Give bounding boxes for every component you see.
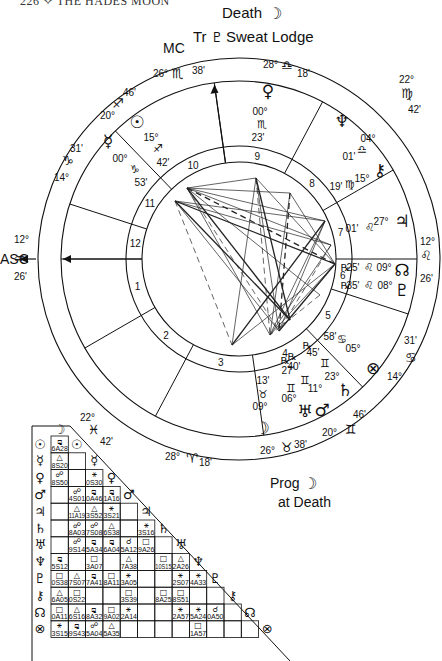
chiron-icon: ⚷ bbox=[374, 160, 386, 180]
moon-icon: ☽ bbox=[303, 474, 317, 493]
zodiac-sign-icon: ♍ bbox=[345, 178, 355, 191]
aspect-orb: 5A35 bbox=[103, 629, 119, 638]
cusp-degree: 28° bbox=[165, 451, 180, 462]
row-planet-icon: ☊ bbox=[34, 605, 46, 620]
aspect-orb: 6S38 bbox=[103, 528, 119, 537]
aspect-orb: 0A11 bbox=[52, 612, 68, 621]
aspect-orb: 8S51 bbox=[173, 595, 189, 604]
planet-neptune: ♆04°♎01' bbox=[334, 111, 375, 162]
aspect-cell bbox=[172, 621, 189, 638]
natal-chart-wheel: 12345678910111212°♒26'22°♓42'28°♈18'26°♉… bbox=[0, 0, 442, 661]
aspect-cell bbox=[51, 486, 68, 503]
aspect-cell bbox=[68, 453, 85, 470]
aspect-orb: 8A03 bbox=[69, 528, 85, 537]
house-cusp-line bbox=[285, 102, 323, 174]
aspect-line bbox=[175, 201, 232, 345]
aspect-orb: 0A46 bbox=[86, 494, 102, 503]
planet-venus: ♀00°♏23' bbox=[251, 81, 274, 143]
planet-minute: 42' bbox=[156, 157, 169, 168]
uranus-icon: ♅ bbox=[297, 401, 312, 421]
diagonal-planet-icon: ♇ bbox=[210, 571, 222, 586]
aspect-cell bbox=[155, 537, 172, 554]
aspect-orb: 2A57 bbox=[173, 612, 189, 621]
moon-icon: ☽ bbox=[54, 422, 66, 437]
house-number: 3 bbox=[218, 357, 224, 368]
retrograde-icon: ℞ bbox=[303, 340, 312, 351]
zodiac-sign-icon: ♉ bbox=[258, 388, 268, 401]
aspect-orb: 11A19 bbox=[69, 511, 85, 520]
diagonal-planet-icon: ⊗ bbox=[262, 621, 273, 636]
planet-minute: 01' bbox=[342, 151, 355, 162]
cusp-label: 12°♌26' bbox=[420, 236, 435, 284]
aspect-cell bbox=[51, 503, 68, 520]
aspect-orb: 5A12 bbox=[121, 545, 137, 554]
caption-prog: Prog bbox=[270, 475, 300, 491]
asc-label: ASC bbox=[0, 251, 29, 267]
aspect-orb: 9A02 bbox=[103, 612, 119, 621]
jupiter-icon: ♃ bbox=[394, 211, 409, 231]
zodiac-sign-icon: ♑ bbox=[62, 153, 74, 168]
aspect-cell bbox=[207, 621, 224, 638]
zodiac-sign-icon: ♑ bbox=[130, 163, 140, 176]
aspect-orb: 5A34 bbox=[86, 545, 102, 554]
house-cusps bbox=[20, 83, 417, 436]
house-number: 8 bbox=[309, 178, 315, 189]
cusp-degree: 20° bbox=[322, 427, 337, 438]
row-planet-icon: ♄ bbox=[34, 521, 46, 536]
house-number: 7 bbox=[338, 227, 344, 238]
diagonal-planet-icon: ♂ bbox=[123, 487, 135, 502]
aspect-cell bbox=[68, 470, 85, 487]
aspect-cell bbox=[241, 621, 258, 638]
north-node-icon: ☊ bbox=[394, 260, 409, 280]
diagonal-planet-icon: ☊ bbox=[244, 605, 256, 620]
aspect-orb: 8S50 bbox=[52, 478, 68, 487]
venus-icon: ♀ bbox=[262, 81, 274, 101]
asc-arrow-head bbox=[63, 255, 71, 263]
house-cusp-line bbox=[70, 204, 147, 229]
aspect-orb: 7A38 bbox=[121, 562, 137, 571]
retrograde-icon: ℞ bbox=[281, 355, 290, 366]
zodiac-sign-icon: ♎ bbox=[281, 58, 293, 73]
aspect-cell bbox=[207, 587, 224, 604]
aspect-line bbox=[270, 295, 320, 335]
caption-death: Death bbox=[222, 4, 262, 21]
planet-degree: 05° bbox=[345, 343, 360, 354]
zodiac-sign-icon: ♐ bbox=[112, 96, 124, 111]
cusp-degree: 28° bbox=[263, 59, 278, 70]
diagonal-planet-icon: ⚷ bbox=[228, 588, 238, 603]
planet-degree: 11° bbox=[308, 383, 322, 394]
aspect-orb: 3S39 bbox=[121, 595, 137, 604]
aspect-cell bbox=[103, 587, 120, 604]
zodiac-sign-icon: ♉ bbox=[281, 440, 293, 455]
house-number: 9 bbox=[254, 151, 260, 162]
planet-minute: 27' bbox=[281, 365, 294, 376]
house-number: 10 bbox=[187, 160, 199, 171]
diagonal-planet-icon: ♅ bbox=[175, 537, 187, 552]
planet-minute: 01' bbox=[345, 223, 358, 234]
cusp-degree: 26° bbox=[260, 445, 275, 456]
aspect-orb: 7S08 bbox=[86, 528, 102, 537]
cusp-minute: 26' bbox=[14, 271, 27, 282]
cusp-label: 14°♑31' bbox=[54, 143, 83, 183]
house-number: 11 bbox=[145, 198, 156, 209]
aspect-orb: 3S21 bbox=[103, 511, 119, 520]
aspect-cell bbox=[68, 554, 85, 571]
cusp-minute: 38' bbox=[192, 65, 205, 76]
zodiac-sign-icon: ♋ bbox=[337, 333, 347, 346]
aspect-line bbox=[232, 178, 256, 345]
mc-arrow-head bbox=[211, 85, 219, 94]
aspect-orb: 0S30 bbox=[86, 478, 102, 487]
zodiac-sign-icon: ♌ bbox=[364, 279, 374, 292]
row-planet-icon: ⚷ bbox=[35, 588, 45, 603]
aspect-lines bbox=[175, 178, 335, 345]
zodiac-sign-icon: ♏ bbox=[172, 66, 184, 81]
zodiac-sign-icon: ♍ bbox=[401, 86, 413, 101]
zodiac-sign-icon: ♋ bbox=[405, 350, 417, 365]
cusp-degree: 26° bbox=[153, 68, 168, 79]
planet-degree: 09° bbox=[252, 401, 267, 412]
aspect-cell bbox=[120, 621, 137, 638]
aspect-line bbox=[290, 193, 335, 264]
aspect-cell bbox=[138, 570, 155, 587]
planet-minute: 53' bbox=[134, 177, 147, 188]
aspect-orb: 2S07 bbox=[173, 578, 189, 587]
